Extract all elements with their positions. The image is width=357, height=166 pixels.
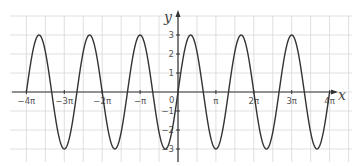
- x-tick-label: 2π: [249, 96, 260, 106]
- y-axis-label: y: [163, 9, 173, 25]
- x-axis-arrow-icon: [331, 90, 338, 95]
- y-tick-label: −1: [161, 106, 174, 116]
- grid: [10, 16, 352, 162]
- x-tick-label: −2π: [93, 96, 111, 106]
- origin-label: 0: [169, 95, 174, 105]
- x-axis-label: x: [338, 87, 346, 103]
- x-tick-label: 3π: [286, 96, 297, 106]
- x-tick-label: −4π: [18, 96, 36, 106]
- x-tick-label: −π: [134, 96, 146, 106]
- y-tick-label: 2: [169, 49, 174, 59]
- y-axis-arrow-icon: [176, 10, 181, 17]
- x-tick-label: π: [213, 96, 218, 106]
- sine-chart: −4π−3π−2π−ππ2π3π4π 321−1−2−3 x y 0: [0, 0, 357, 166]
- axes: [12, 10, 338, 162]
- x-tick-label: 4π: [324, 96, 335, 106]
- y-tick-label: 1: [169, 68, 174, 78]
- y-tick-label: 3: [169, 30, 174, 40]
- x-tick-label: −3π: [55, 96, 73, 106]
